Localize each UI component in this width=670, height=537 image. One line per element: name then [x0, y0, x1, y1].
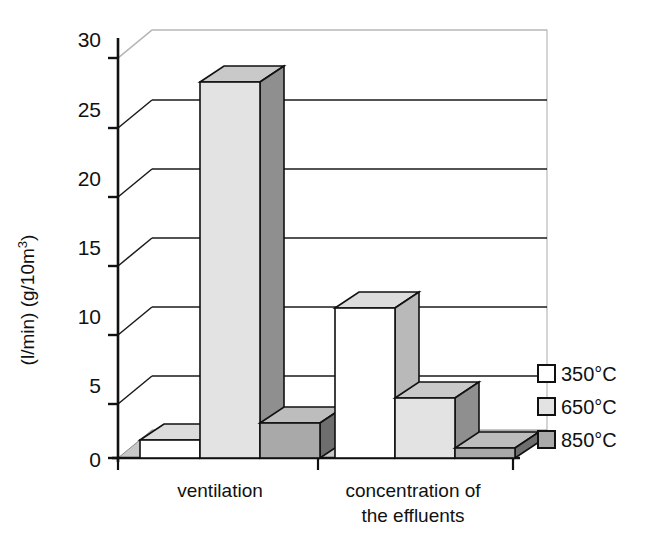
- bar-ventilation-650: [200, 66, 284, 458]
- y-tick-label-10: 10: [78, 305, 101, 328]
- y-tick-label-0: 0: [89, 448, 101, 471]
- bar-side-face: [260, 66, 284, 458]
- bar-front-face: [395, 398, 455, 458]
- bar-ventilation-850: [260, 407, 344, 458]
- legend-swatch-350: [538, 365, 555, 382]
- y-axis: 30 25 20 15 10 5 0: [78, 28, 118, 471]
- y-axis-title-tail: ): [17, 235, 38, 241]
- x-category-labels: ventilation concentration of the effluen…: [177, 480, 481, 526]
- y-tick-labels: 30 25 20 15 10 5 0: [78, 28, 101, 471]
- y-tick-label-30: 30: [78, 28, 101, 51]
- x-axis: [112, 458, 520, 470]
- legend-label-650: 650°C: [561, 396, 617, 418]
- bar-front-face: [140, 440, 200, 458]
- y-tick-label-5: 5: [89, 374, 101, 397]
- x-category-label-concentration-line2: the effluents: [361, 505, 464, 526]
- y-axis-ticks: [108, 58, 118, 458]
- legend: 350°C 650°C 850°C: [538, 363, 617, 451]
- y-tick-label-15: 15: [78, 236, 101, 259]
- y-axis-title-superscript: 3: [15, 241, 30, 248]
- y-tick-label-25: 25: [78, 98, 101, 121]
- legend-label-850: 850°C: [561, 429, 617, 451]
- y-axis-title-main: (l/min) (g/10m: [17, 248, 38, 365]
- plot-back-wall: [118, 30, 547, 458]
- y-axis-title: (l/min) (g/10m3): [15, 235, 38, 366]
- legend-swatch-650: [538, 398, 555, 415]
- x-category-label-concentration-line1: concentration of: [345, 480, 481, 501]
- x-category-label-ventilation: ventilation: [177, 480, 263, 501]
- bar-front-face: [260, 423, 320, 458]
- legend-swatch-850: [538, 431, 555, 448]
- legend-label-350: 350°C: [561, 363, 617, 385]
- bar-front-face: [200, 82, 260, 458]
- bar-front-face: [335, 308, 395, 458]
- bar-chart-figure: 30 25 20 15 10 5 0 (l/min) (g/10m3): [0, 0, 670, 537]
- legend-item-350[interactable]: 350°C: [538, 363, 617, 385]
- y-tick-label-20: 20: [78, 167, 101, 190]
- legend-item-650[interactable]: 650°C: [538, 396, 617, 418]
- bar-front-face: [455, 448, 515, 458]
- chart-svg: 30 25 20 15 10 5 0 (l/min) (g/10m3): [0, 0, 670, 537]
- plot-panel: [118, 30, 547, 458]
- svg-text:(l/min) (g/10m3): (l/min) (g/10m3): [15, 235, 38, 366]
- legend-item-850[interactable]: 850°C: [538, 429, 617, 451]
